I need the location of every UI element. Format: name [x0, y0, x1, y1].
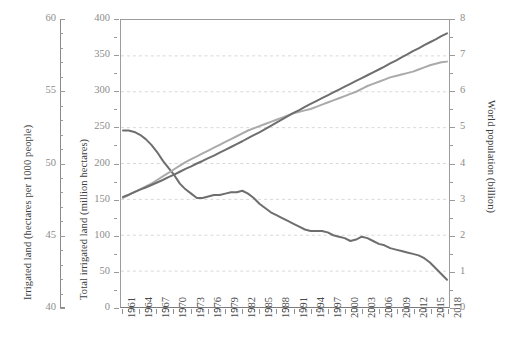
x-axis-tick-label: 1982: [246, 297, 257, 318]
x-axis-tick-label: 2000: [349, 297, 360, 318]
x-axis-tick-label: 1997: [332, 297, 343, 318]
x-axis-tick-label: 2015: [435, 297, 446, 318]
x-axis-tick-label: 1991: [298, 297, 309, 318]
x-axis-tick-label: 1994: [315, 297, 326, 318]
x-axis-tick-label: 1976: [212, 297, 223, 318]
x-axis-tick-label: 1961: [126, 297, 137, 318]
x-axis-tick-label: 1985: [263, 297, 274, 318]
x-axis-tick-label: 2006: [383, 297, 394, 318]
x-axis-tick-label: 1967: [160, 297, 171, 318]
x-axis-tick-label: 1964: [143, 297, 154, 318]
x-axis-tick-label: 2018: [452, 297, 463, 318]
x-axis-tick-label: 2003: [366, 297, 377, 318]
x-axis-tick-label: 1970: [177, 297, 188, 318]
x-axis-tick-label: 1988: [280, 297, 291, 318]
x-axis-tick-label: 1979: [229, 297, 240, 318]
x-axis-tick-label: 2009: [401, 297, 412, 318]
x-axis-tick-label: 1973: [195, 297, 206, 318]
x-axis-labels: 1961196419671970197319761979198219851988…: [0, 0, 506, 359]
chart-figure: Irrigated land (hectares per 1000 people…: [0, 0, 506, 359]
x-axis-tick-label: 2012: [418, 297, 429, 318]
